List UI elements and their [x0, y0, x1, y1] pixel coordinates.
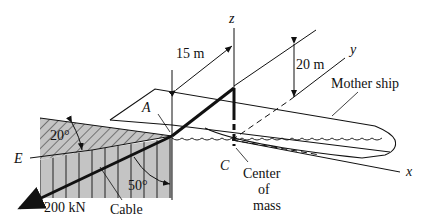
center-of-mass-label-2: of: [258, 182, 270, 197]
point-a-label: A: [141, 100, 151, 115]
cable-label: Cable: [110, 202, 143, 217]
dim-15m-label: 15 m: [176, 46, 205, 61]
center-of-mass-label-3: mass: [253, 198, 281, 213]
z-axis-label: z: [228, 11, 235, 26]
angle-20-label: 20°: [50, 128, 70, 143]
mother-ship-label: Mother ship: [331, 76, 399, 91]
ship-cable-diagram: x y z 20 m 15 m E 20° 50° A C Center of …: [0, 0, 437, 223]
point-c-label: C: [220, 158, 230, 173]
dim-20m-label: 20 m: [296, 57, 325, 72]
angle-50-label: 50°: [128, 178, 148, 193]
diagram-canvas: x y z 20 m 15 m E 20° 50° A C Center of …: [0, 0, 437, 223]
y-axis-label: y: [348, 42, 357, 57]
center-of-mass-label-1: Center: [243, 166, 281, 181]
point-e-label: E: [13, 151, 23, 166]
force-label: 200 kN: [44, 200, 86, 215]
x-axis-label: x: [405, 164, 413, 179]
